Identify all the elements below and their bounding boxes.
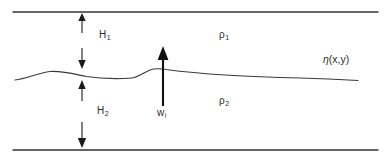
label-eta: η(x,y) <box>323 54 349 65</box>
label-h1-subscript: 1 <box>107 34 111 41</box>
h1-lower-dimension-arrow <box>78 48 85 69</box>
interface-curve <box>15 69 358 81</box>
h1-upper-dimension-arrow <box>78 13 85 33</box>
label-h1-symbol: H <box>99 29 106 40</box>
label-rho1-subscript: 1 <box>225 34 229 41</box>
two-layer-fluid-diagram: H1 H2 wi ρ1 ρ2 η(x,y) <box>0 0 385 162</box>
label-rho1-symbol: ρ <box>219 29 225 40</box>
label-rho1: ρ1 <box>219 30 229 40</box>
label-wi: wi <box>157 108 166 118</box>
label-rho2-subscript: 2 <box>225 100 229 107</box>
label-h2-symbol: H <box>97 105 104 116</box>
label-h2-subscript: 2 <box>105 110 109 117</box>
h2-lower-dimension-arrow <box>78 122 86 148</box>
diagram-canvas <box>0 0 385 162</box>
label-eta-argument: (x,y) <box>329 53 349 65</box>
label-rho2: ρ2 <box>219 96 229 106</box>
interfacial-velocity-arrow <box>158 46 169 106</box>
label-wi-symbol: w <box>157 107 164 118</box>
label-rho2-symbol: ρ <box>219 95 225 106</box>
h2-upper-dimension-arrow <box>78 80 85 101</box>
label-h1: H1 <box>99 30 110 40</box>
label-h2: H2 <box>97 106 108 116</box>
